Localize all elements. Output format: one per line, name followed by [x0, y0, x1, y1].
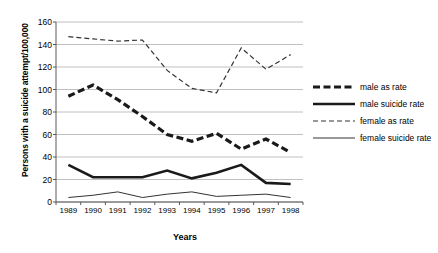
- x-tick-label: 1991: [109, 206, 127, 215]
- series-line-male-suicide-rate: [68, 165, 290, 184]
- legend-label: female as rate: [360, 116, 414, 126]
- x-tick-label: 1989: [59, 206, 77, 215]
- legend-label: female suicide rate: [360, 133, 431, 143]
- legend-item: male as rate: [312, 78, 436, 95]
- legend-swatch-icon: [312, 81, 356, 93]
- chart-legend: male as ratemale suicide ratefemale as r…: [312, 78, 436, 146]
- legend-swatch-icon: [312, 132, 356, 144]
- legend-item: male suicide rate: [312, 95, 436, 112]
- legend-swatch-icon: [312, 98, 356, 110]
- series-line-female-suicide-rate: [68, 192, 290, 198]
- x-tick-label: 1995: [208, 206, 226, 215]
- suicide-attempt-line-chart: Persons with a suicide attempt/100,000 0…: [0, 0, 438, 253]
- x-tick-label: 1990: [84, 206, 102, 215]
- x-axis-label: Years: [60, 232, 310, 242]
- legend-swatch-icon: [312, 115, 356, 127]
- x-tick-label: 1994: [183, 206, 201, 215]
- legend-item: female suicide rate: [312, 129, 436, 146]
- x-tick-label: 1992: [134, 206, 152, 215]
- legend-label: male as rate: [360, 82, 407, 92]
- x-tick-label: 1997: [257, 206, 275, 215]
- x-tick-label: 1998: [282, 206, 300, 215]
- series-line-female-as-rate: [68, 37, 290, 93]
- series-line-male-as-rate: [68, 85, 290, 153]
- x-tick-label: 1996: [232, 206, 250, 215]
- legend-label: male suicide rate: [360, 99, 424, 109]
- x-tick-label: 1993: [158, 206, 176, 215]
- legend-item: female as rate: [312, 112, 436, 129]
